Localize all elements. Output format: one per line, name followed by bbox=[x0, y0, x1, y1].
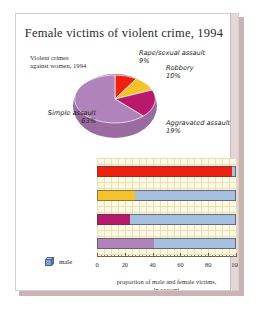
x-tick-minor bbox=[107, 255, 108, 257]
figure-title: Female victims of violent crime, 1994 bbox=[16, 26, 232, 41]
bar-plot-area bbox=[97, 158, 236, 257]
x-tick-minor bbox=[174, 255, 175, 257]
x-tick-minor bbox=[149, 255, 150, 257]
blue-cube-icon bbox=[45, 257, 54, 266]
x-tick-minor bbox=[170, 255, 171, 257]
x-tick-minor bbox=[118, 255, 119, 257]
x-tick-minor bbox=[201, 255, 202, 257]
x-tick-minor bbox=[215, 255, 216, 257]
x-tick-minor bbox=[101, 255, 102, 257]
x-tick-minor bbox=[132, 255, 133, 257]
x-tick-label: 40 bbox=[149, 261, 155, 268]
gridline-horizontal bbox=[97, 206, 236, 207]
x-tick-minor bbox=[187, 255, 188, 257]
x-axis-caption: proportion of male and female victims, i… bbox=[97, 278, 236, 291]
legend-male-label: male bbox=[59, 258, 72, 265]
pie-label-simple: Simple assault 63% bbox=[38, 110, 96, 125]
x-tick-minor bbox=[222, 255, 223, 257]
x-tick-minor bbox=[114, 255, 115, 257]
x-tick-label: 20 bbox=[122, 261, 128, 268]
x-tick-minor bbox=[128, 255, 129, 257]
x-tick-minor bbox=[229, 255, 230, 257]
x-tick-minor bbox=[160, 255, 161, 257]
x-tick-major bbox=[236, 253, 237, 257]
x-tick-minor bbox=[163, 255, 164, 257]
x-tick-major bbox=[208, 253, 209, 257]
pie-label-aggravated: Aggravated assault 19% bbox=[166, 120, 230, 135]
bar-segment-male[interactable] bbox=[130, 214, 236, 225]
pie-label-robbery: Robbery 10% bbox=[166, 65, 194, 80]
bar-segment-female[interactable] bbox=[97, 166, 232, 177]
gridline-vertical bbox=[236, 158, 237, 257]
gridline-horizontal bbox=[97, 188, 236, 189]
x-axis-caption-line1: proportion of male and female victims, bbox=[97, 278, 236, 286]
gridline-horizontal bbox=[97, 212, 236, 213]
x-tick-minor bbox=[194, 255, 195, 257]
x-tick-minor bbox=[198, 255, 199, 257]
pie-chart bbox=[73, 65, 159, 143]
x-tick-minor bbox=[121, 255, 122, 257]
bar-segment-male[interactable] bbox=[232, 166, 236, 177]
x-tick-major bbox=[180, 253, 181, 257]
screenshot-root: Female victims of violent crime, 1994 Vi… bbox=[0, 0, 256, 321]
gridline-horizontal bbox=[97, 182, 236, 183]
x-tick-minor bbox=[184, 255, 185, 257]
x-tick-minor bbox=[205, 255, 206, 257]
x-tick-minor bbox=[233, 255, 234, 257]
x-tick-minor bbox=[191, 255, 192, 257]
bar-row[interactable] bbox=[97, 214, 236, 225]
bar-segment-male[interactable] bbox=[154, 238, 236, 249]
pie-label-simple-value: 63% bbox=[38, 118, 96, 126]
bar-row[interactable] bbox=[97, 190, 236, 201]
x-tick-minor bbox=[212, 255, 213, 257]
x-tick-minor bbox=[142, 255, 143, 257]
x-tick-minor bbox=[167, 255, 168, 257]
pie-chart-section: Violent crimesagainst women, 1994 bbox=[16, 48, 232, 154]
x-tick-minor bbox=[139, 255, 140, 257]
bar-row[interactable] bbox=[97, 238, 236, 249]
x-tick-major bbox=[153, 253, 154, 257]
x-tick-label: 80 bbox=[205, 261, 211, 268]
gridline-horizontal bbox=[97, 164, 236, 165]
x-tick-minor bbox=[226, 255, 227, 257]
x-tick-minor bbox=[177, 255, 178, 257]
x-tick-minor bbox=[111, 255, 112, 257]
x-tick-label: 0 bbox=[95, 261, 98, 268]
gridline-horizontal bbox=[97, 158, 236, 159]
bar-segment-male[interactable] bbox=[135, 190, 237, 201]
figure-card: Female victims of violent crime, 1994 Vi… bbox=[15, 13, 239, 291]
x-tick-minor bbox=[146, 255, 147, 257]
x-tick-minor bbox=[104, 255, 105, 257]
x-tick-major bbox=[97, 253, 98, 257]
bar-row[interactable] bbox=[97, 166, 236, 177]
pie-label-aggravated-value: 19% bbox=[166, 128, 230, 136]
gridline-horizontal bbox=[97, 230, 236, 231]
pie-label-rape: Rape/sexual assault 9% bbox=[139, 50, 205, 65]
x-tick-label: 60 bbox=[177, 261, 183, 268]
gridline-horizontal bbox=[97, 236, 236, 237]
x-axis-caption-line2: in percent bbox=[97, 286, 236, 291]
bar-segment-female[interactable] bbox=[97, 214, 130, 225]
x-tick-label: 100 bbox=[231, 261, 239, 268]
legend-male: male bbox=[45, 257, 72, 266]
pie-label-robbery-value: 10% bbox=[166, 73, 194, 81]
x-tick-minor bbox=[219, 255, 220, 257]
x-tick-minor bbox=[135, 255, 136, 257]
bar-chart-section: Rape/sexual assault Robbery Aggravated a… bbox=[16, 154, 232, 291]
bar-segment-female[interactable] bbox=[97, 238, 154, 249]
x-tick-major bbox=[125, 253, 126, 257]
bar-segment-female[interactable] bbox=[97, 190, 135, 201]
x-tick-minor bbox=[156, 255, 157, 257]
